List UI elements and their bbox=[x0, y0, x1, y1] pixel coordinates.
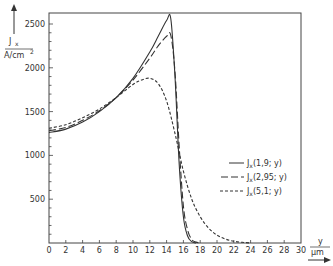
y-axis-label: J x A/cm 2 bbox=[4, 4, 34, 60]
x-tick-label: 28 bbox=[279, 246, 289, 255]
x-tick-label: 8 bbox=[114, 246, 119, 255]
x-tick-label: 12 bbox=[145, 246, 155, 255]
y-tick-label: 2000 bbox=[25, 64, 45, 73]
x-tick-label: 6 bbox=[97, 246, 102, 255]
y-tick-label: 500 bbox=[30, 195, 45, 204]
x-tick-label: 30 bbox=[296, 246, 306, 255]
x-tick-label: 10 bbox=[128, 246, 138, 255]
y-tick-label: 1500 bbox=[25, 108, 45, 117]
y-tick-label: 2500 bbox=[25, 20, 45, 29]
x-tick-label: 14 bbox=[162, 246, 172, 255]
x-tick-label: 20 bbox=[212, 246, 222, 255]
x-tick-label: 26 bbox=[262, 246, 272, 255]
plot-frame bbox=[49, 13, 301, 243]
x-tick-label: 4 bbox=[80, 246, 85, 255]
x-tick-label: 22 bbox=[229, 246, 239, 255]
curves bbox=[49, 14, 251, 243]
xlabel-y: y bbox=[318, 237, 323, 246]
series-line-2 bbox=[49, 78, 251, 243]
x-tick-label: 16 bbox=[178, 246, 188, 255]
legend-label-0: Jx(1,9; y) bbox=[246, 159, 282, 169]
legend: Jx(1,9; y) Jx(2,95; y) Jx(5,1; y) bbox=[220, 159, 287, 197]
legend-label-2: Jx(5,1; y) bbox=[246, 187, 282, 197]
y-tick-label: 1000 bbox=[25, 151, 45, 160]
legend-label-1: Jx(2,95; y) bbox=[246, 173, 287, 183]
ylabel-unit: A/cm bbox=[4, 51, 25, 60]
x-tick-label: 18 bbox=[195, 246, 205, 255]
arrow-up-icon bbox=[11, 4, 17, 11]
x-tick-label: 0 bbox=[46, 246, 51, 255]
x-ticks: 024681012141618202224262830 bbox=[46, 240, 306, 255]
chart: J x A/cm 2 5001000150020002500 024681012… bbox=[0, 0, 333, 266]
ylabel-unit-sup: 2 bbox=[30, 48, 34, 55]
x-tick-label: 24 bbox=[246, 246, 256, 255]
ylabel-j: J bbox=[8, 37, 11, 46]
x-tick-label: 2 bbox=[63, 246, 68, 255]
ylabel-sub: x bbox=[15, 40, 19, 47]
xlabel-unit: µm bbox=[311, 248, 324, 257]
arrow-right-icon bbox=[324, 257, 331, 263]
x-axis-label: y µm bbox=[308, 237, 331, 263]
